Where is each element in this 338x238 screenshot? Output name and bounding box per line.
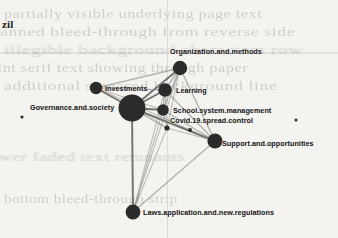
graph-edge xyxy=(133,110,163,212)
graph-node-label-investments: Investments xyxy=(105,84,148,93)
graph-node-governance[interactable] xyxy=(119,95,146,122)
graph-node-label-governance: Governance.and.society xyxy=(30,103,114,112)
network-graph xyxy=(0,0,338,238)
stray-dot xyxy=(188,128,192,132)
graph-node-support[interactable] xyxy=(207,133,222,148)
figure-canvas: partially visible underlying page textsc… xyxy=(0,0,338,238)
graph-node-label-covid: Covid.19.spread.control xyxy=(170,116,253,125)
graph-node-learning[interactable] xyxy=(158,83,172,97)
graph-node-label-support: Support.and.opportunities xyxy=(222,139,313,148)
graph-node-laws[interactable] xyxy=(126,205,141,220)
graph-node-covid[interactable] xyxy=(164,125,169,130)
graph-edge xyxy=(133,141,215,212)
stray-dot xyxy=(295,119,298,122)
graph-edge xyxy=(133,128,167,212)
corner-caption: zil xyxy=(2,18,14,30)
graph-node-investments[interactable] xyxy=(90,82,102,94)
stray-dot xyxy=(20,115,23,118)
graph-edge xyxy=(132,108,133,212)
graph-node-organization[interactable] xyxy=(173,61,187,75)
graph-node-label-school: School.system.management xyxy=(173,106,271,115)
graph-node-label-laws: Laws.application.and.new.regulations xyxy=(143,208,274,217)
graph-node-school[interactable] xyxy=(157,104,169,116)
graph-node-label-organization: Organization.and.methods xyxy=(170,47,262,56)
graph-node-label-learning: Learning xyxy=(176,86,207,95)
